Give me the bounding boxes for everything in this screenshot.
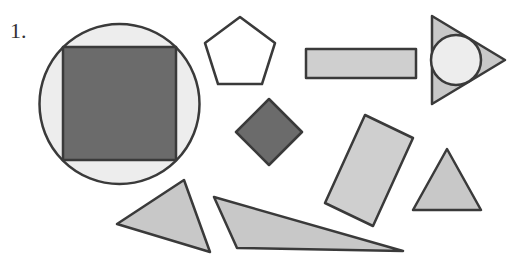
inscribed-square <box>63 47 176 160</box>
horizontal-rectangle <box>306 49 416 78</box>
tilted-rectangle <box>325 115 413 226</box>
inscribed-circle <box>431 35 481 85</box>
pentagon <box>205 17 275 84</box>
shapes-diagram <box>0 0 516 269</box>
scalene-triangle <box>117 180 210 252</box>
diamond <box>236 99 302 165</box>
equilateral-triangle <box>413 149 481 210</box>
